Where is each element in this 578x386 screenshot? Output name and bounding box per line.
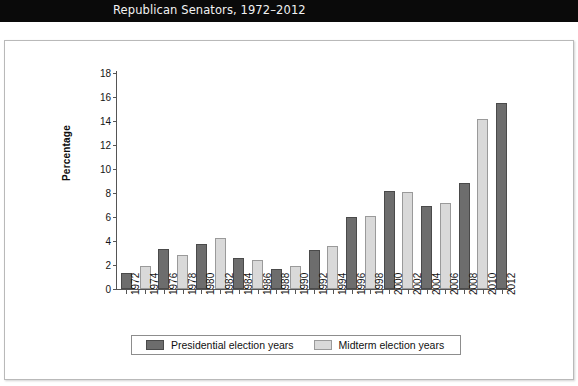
legend-label: Midterm election years (339, 339, 445, 351)
x-tick-mark (464, 290, 465, 294)
x-tick-mark (126, 290, 127, 294)
y-tick-label: 18 (5, 68, 111, 79)
y-tick-mark (113, 193, 117, 194)
y-tick-label: 16 (5, 92, 111, 103)
legend-item-midterm: Midterm election years (314, 339, 445, 351)
bar-2010 (477, 119, 488, 289)
x-tick-label: 1986 (262, 273, 273, 295)
x-tick-mark (333, 290, 334, 294)
x-tick-mark (352, 290, 353, 294)
x-tick-label: 2010 (487, 273, 498, 295)
x-tick-label: 1998 (374, 273, 385, 295)
x-tick-label: 2002 (412, 273, 423, 295)
x-tick-label: 2012 (506, 273, 517, 295)
y-tick-label: 0 (5, 284, 111, 295)
y-tick-mark (113, 73, 117, 74)
x-tick-label: 1976 (168, 273, 179, 295)
title-banner: Republican Senators, 1972–2012 (0, 0, 578, 22)
x-tick-label: 1972 (130, 273, 141, 295)
legend-swatch-midterm (314, 340, 332, 350)
x-tick-label: 1980 (205, 273, 216, 295)
x-tick-label: 1974 (149, 273, 160, 295)
x-tick-label: 1996 (356, 273, 367, 295)
y-tick-label: 12 (5, 140, 111, 151)
y-tick-label: 8 (5, 188, 111, 199)
y-tick-label: 14 (5, 116, 111, 127)
plot-area (117, 73, 511, 289)
y-tick-mark (113, 169, 117, 170)
x-tick-label: 1978 (187, 273, 198, 295)
y-tick-mark (113, 289, 117, 290)
y-tick-label: 4 (5, 236, 111, 247)
x-tick-label: 2000 (393, 273, 404, 295)
x-tick-mark (201, 290, 202, 294)
page-title: Republican Senators, 1972–2012 (113, 3, 306, 17)
bar-2012 (496, 103, 507, 289)
y-tick-mark (113, 145, 117, 146)
x-tick-label: 1994 (337, 273, 348, 295)
chart-legend: Presidential election yearsMidterm elect… (131, 335, 461, 355)
legend-swatch-presidential (146, 340, 164, 350)
x-tick-label: 2008 (468, 273, 479, 295)
x-tick-label: 1982 (224, 273, 235, 295)
y-tick-mark (113, 217, 117, 218)
x-tick-mark (276, 290, 277, 294)
x-tick-mark (145, 290, 146, 294)
x-tick-mark (220, 290, 221, 294)
y-tick-mark (113, 97, 117, 98)
x-tick-label: 1984 (243, 273, 254, 295)
x-tick-mark (502, 290, 503, 294)
x-tick-mark (239, 290, 240, 294)
y-tick-mark (113, 265, 117, 266)
y-tick-label: 10 (5, 164, 111, 175)
x-tick-label: 1990 (299, 273, 310, 295)
y-tick-mark (113, 121, 117, 122)
legend-label: Presidential election years (171, 339, 294, 351)
x-tick-mark (389, 290, 390, 294)
x-tick-mark (427, 290, 428, 294)
y-tick-label: 2 (5, 260, 111, 271)
y-tick-mark (113, 241, 117, 242)
x-tick-mark (183, 290, 184, 294)
x-tick-mark (258, 290, 259, 294)
x-tick-mark (295, 290, 296, 294)
x-tick-mark (370, 290, 371, 294)
x-tick-label: 1992 (318, 273, 329, 295)
legend-item-presidential: Presidential election years (146, 339, 294, 351)
x-tick-mark (483, 290, 484, 294)
x-tick-label: 1988 (280, 273, 291, 295)
y-tick-label: 6 (5, 212, 111, 223)
chart-figure: Percentage 024681012141618 1972197419761… (4, 40, 574, 380)
x-tick-mark (445, 290, 446, 294)
x-tick-mark (408, 290, 409, 294)
x-tick-label: 2004 (431, 273, 442, 295)
x-tick-mark (164, 290, 165, 294)
x-tick-mark (314, 290, 315, 294)
x-tick-label: 2006 (449, 273, 460, 295)
